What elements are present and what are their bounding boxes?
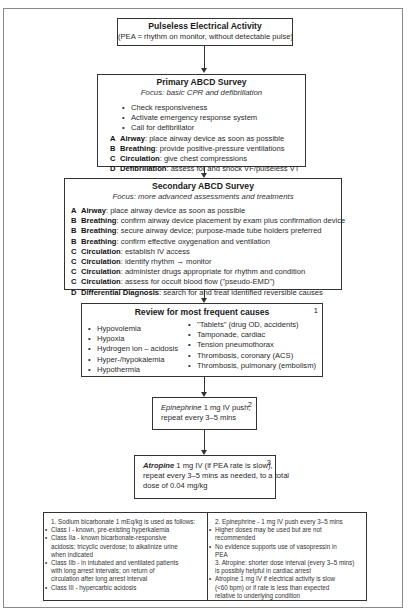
epinephrine-drug: Epinephrine [161,403,202,412]
review-left-list: Hypovolemia Hypoxia Hydrogen ion – acido… [88,324,188,375]
secondary-step: BBreathing: confirm effective oxygenatio… [71,237,341,247]
atropine-box: 3 Atropine 1 mg IV (if PEA rate is slow)… [134,455,276,499]
secondary-step: BBreathing: secure airway device; purpos… [71,226,341,236]
secondary-survey-box: Secondary ABCD Survey Focus: more advanc… [64,178,342,290]
cause-item: Tension pneumothorax [188,340,316,350]
notes-left-box: 1. Sodium bicarbonate 1 mEq/kg is used a… [43,512,208,601]
cause-item: "Tablets" (drug OD, accidents) [188,320,316,330]
note-1-item: Class I - known, pre-existing hyperkalem… [51,526,203,534]
note-1-heading: 1. Sodium bicarbonate 1 mEq/kg is used a… [51,518,203,526]
note-2-item: No evidence supports use of vasopressin … [215,543,362,559]
arrow-1 [201,68,207,73]
note-3-item: Atropine 1 mg IV if electrical activity … [215,575,362,600]
secondary-focus: Focus: more advanced assessments and tre… [65,192,341,202]
primary-step: CCirculation: give chest compressions [110,154,305,164]
note-2-item: Higher doses may be used but are notreco… [215,526,362,542]
cause-item: Hypoxia [88,334,188,344]
secondary-step: AAirway: place airway device as soon as … [71,206,341,216]
primary-step: DDefibrillation: assess for and shock VF… [110,164,305,174]
epinephrine-line-1: Epinephrine 1 mg IV push, [161,403,256,413]
primary-title: Primary ABCD Survey [98,77,305,88]
note-3-heading-cont: is possibly helpful in cardiac arrest [215,567,362,575]
note-1-item: Class IIa - known bicarbonate-responsive… [51,534,203,559]
primary-bullet: Call for defibrillator [122,123,305,133]
footnote-2: 2 [248,400,252,409]
footnote-3: 3 [267,458,271,467]
note-1-item: Class III - hypercarbic acidosis [51,584,203,592]
review-title: Review for most frequent causes [88,307,316,318]
connector-1 [204,46,205,68]
footnote-1: 1 [314,306,318,315]
primary-focus: Focus: basic CPR and defibrillation [98,88,305,98]
connector-5 [204,430,205,450]
epinephrine-box: 2 Epinephrine 1 mg IV push, repeat every… [152,397,257,430]
primary-bullet: Activate emergency response system [122,113,305,123]
secondary-step: CCirculation: assess for occult blood fl… [71,277,341,287]
atropine-drug: Atropine [143,461,174,470]
pea-title: Pulseless Electrical Activity [118,21,292,32]
secondary-step: BBreathing: confirm airway device placem… [71,216,341,226]
cause-item: Hyper-/hypokalemia [88,355,188,365]
note-2-heading: 2. Epinephrine - 1 mg IV push every 3–5 … [215,518,362,526]
review-causes-box: 1 Review for most frequent causes Hypovo… [81,303,323,377]
primary-step: BBreathing: provide positive-pressure ve… [110,144,305,154]
note-1-item: Class IIb - in intubated and ventilated … [51,559,203,584]
cause-item: Thrombosis, coronary (ACS) [188,351,316,361]
epinephrine-line-2: repeat every 3–5 mins [161,413,256,423]
note-3-heading: 3. Atropine: shorter dose interval (ever… [215,559,362,567]
cause-item: Hydrogen ion – acidosis [88,344,188,354]
review-right-list: "Tablets" (drug OD, accidents) Tamponade… [188,320,316,375]
secondary-step: CCirculation: establish IV access [71,247,341,257]
connector-3 [204,290,205,298]
cause-item: Tamponade, cardiac [188,330,316,340]
secondary-step: DDifferential Diagnosis: search for and … [71,288,341,298]
pea-subtitle: (PEA = rhythm on monitor, without detect… [118,32,292,42]
cause-item: Hypothermia [88,365,188,375]
cause-item: Hypovolemia [88,324,188,334]
primary-survey-box: Primary ABCD Survey Focus: basic CPR and… [97,74,306,167]
secondary-step: CCirculation: identify rhythm → monitor [71,257,341,267]
connector-4 [204,377,205,392]
notes-right-box: 2. Epinephrine - 1 mg IV push every 3–5 … [207,512,367,601]
secondary-title: Secondary ABCD Survey [65,181,341,192]
primary-bullet: Check responsiveness [122,103,305,113]
cause-item: Thrombosis, pulmonary (embolism) [188,361,316,371]
secondary-step: CCirculation: administer drugs appropria… [71,267,341,277]
atropine-line-2: repeat every 3–5 mins as needed, to a to… [143,471,275,481]
pea-box: Pulseless Electrical Activity (PEA = rhy… [117,18,293,46]
primary-step: AAirway: place airway device as soon as … [110,134,305,144]
atropine-line-1: Atropine 1 mg IV (if PEA rate is slow), [143,461,275,471]
atropine-line-3: dose of 0.04 mg/kg [143,481,275,491]
